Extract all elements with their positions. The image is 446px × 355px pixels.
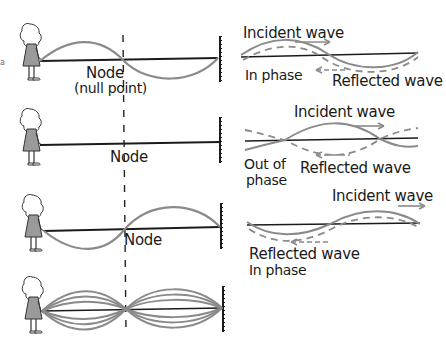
node-label-3: Node [124, 233, 162, 248]
girl-figure-icon [22, 194, 44, 251]
incident-wave-label-2: Incident wave [294, 105, 395, 120]
wall-icon [221, 203, 223, 249]
node-label-2: Node [110, 150, 148, 165]
arrow-left-icon [316, 152, 350, 158]
out-of-phase-label-line2: phase [246, 173, 287, 187]
reflected-wave-label-2: Reflected wave [300, 161, 411, 176]
left-panel-3 [22, 194, 223, 251]
left-panel-4 [22, 276, 225, 333]
node-label-1: Node [86, 66, 124, 81]
null-point-label: (null point) [74, 81, 147, 95]
incident-wave-label-1: Incident wave [243, 26, 344, 41]
wall-icon [220, 117, 222, 163]
right-panel-2 [245, 123, 418, 158]
out-of-phase-label-line1: Out of [244, 157, 286, 171]
svg-text:a: a [0, 58, 5, 67]
reflected-wave-label-3: Reflected wave [249, 247, 360, 262]
in-phase-label-1: In phase [245, 68, 302, 82]
girl-figure-icon [20, 23, 42, 80]
incident-wave-label-3: Incident wave [332, 189, 433, 204]
girl-figure-icon [22, 276, 44, 333]
girl-figure-icon [20, 108, 42, 165]
right-panel-3 [247, 203, 425, 245]
reflected-wave-label-1: Reflected wave [332, 74, 443, 89]
in-phase-label-3: In phase [249, 263, 306, 277]
standing-wave-diagram: a [0, 0, 446, 355]
wall-icon [223, 286, 225, 332]
diagram-canvas: a [0, 0, 446, 355]
wall-icon [220, 36, 222, 82]
